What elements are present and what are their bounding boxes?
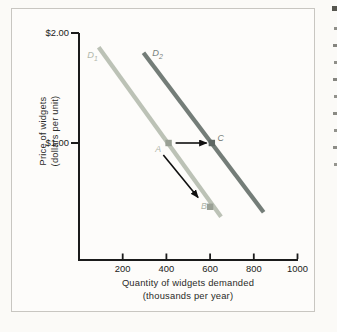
point-label-B: B xyxy=(201,201,207,211)
point-A xyxy=(165,140,171,146)
y-axis-title-line2: (dollars per unit) xyxy=(49,51,61,211)
x-axis-title-line2: (thousands per year) xyxy=(78,289,298,302)
x-tick-label-200: 200 xyxy=(115,263,131,274)
edge-fragment-8 xyxy=(333,146,337,149)
page-edge-text-fragments xyxy=(330,0,337,200)
curve-label-D1: D1 xyxy=(87,50,98,62)
edge-fragment-6 xyxy=(333,112,337,115)
edge-fragment-2 xyxy=(333,44,337,47)
edge-fragment-0 xyxy=(332,6,337,11)
point-C xyxy=(209,140,215,146)
y-axis-title: Price of widgets (dollars per unit) xyxy=(37,51,61,211)
point-label-C: C xyxy=(217,133,224,143)
x-tick-label-1000: 1000 xyxy=(287,263,308,274)
point-B xyxy=(207,204,213,210)
page: { "figure": { "page_background": "#fbfaf… xyxy=(0,0,337,332)
x-tick-label-800: 800 xyxy=(246,263,262,274)
x-axis-title-line1: Quantity of widgets demanded xyxy=(78,276,298,289)
y-tick-label-$2.00: $2.00 xyxy=(46,27,69,38)
x-axis-title: Quantity of widgets demanded (thousands … xyxy=(78,276,298,302)
curve-label-D2: D2 xyxy=(152,48,163,60)
y-axis-title-line1: Price of widgets xyxy=(37,51,49,211)
edge-fragment-4 xyxy=(333,78,337,81)
point-label-A: A xyxy=(154,144,161,154)
x-tick-label-600: 600 xyxy=(202,263,218,274)
x-tick-label-400: 400 xyxy=(159,263,175,274)
